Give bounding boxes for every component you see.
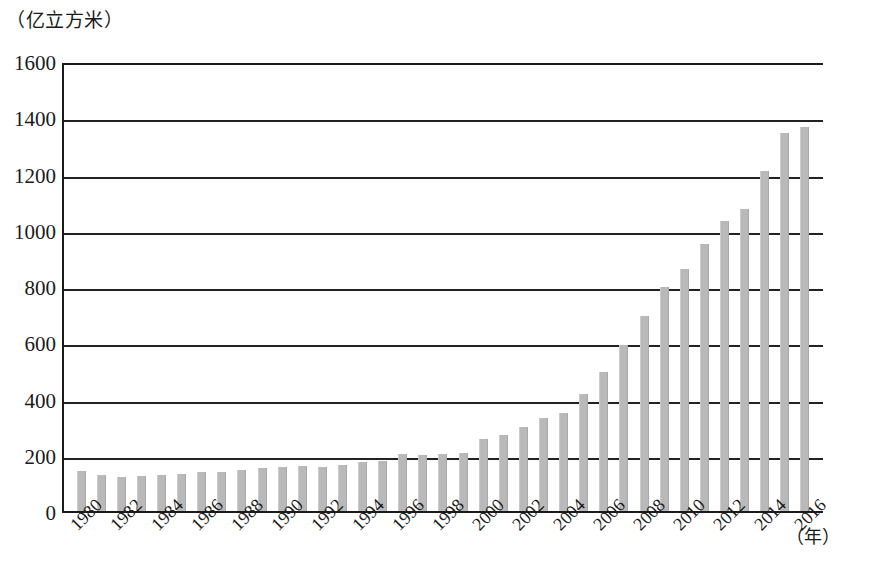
bar [800,127,809,511]
y-axis-tick-label: 1000 [0,221,56,242]
bar [499,435,508,512]
y-axis-unit-caption: （亿立方米） [6,8,123,32]
gridline [64,289,823,291]
bar [700,244,709,511]
y-axis-tick-label: 600 [0,334,56,355]
bar [780,133,789,511]
y-axis-tick-label: 200 [0,446,56,467]
bar-chart-figure: （亿立方米） 02004006008001000120014001600 198… [0,0,869,571]
y-axis-tick-label: 1200 [0,165,56,186]
gridline [64,402,823,404]
bar [720,221,729,511]
gridline [64,177,823,179]
bar [619,345,628,511]
bar [479,439,488,511]
gridline [64,345,823,347]
bar [519,427,528,511]
bar [539,418,548,511]
bar [599,372,608,511]
x-axis-title: （年） [786,527,840,547]
gridline [64,120,823,122]
y-axis-tick-labels: 02004006008001000120014001600 [0,63,56,513]
y-axis-tick-label: 1400 [0,109,56,130]
bar [760,171,769,511]
bar [559,413,568,511]
bar [640,316,649,511]
y-axis-tick-label: 800 [0,278,56,299]
y-axis-tick-label: 1600 [0,53,56,74]
bar [740,209,749,511]
plot-area [62,63,823,513]
bar [660,287,669,511]
bar [680,269,689,511]
y-axis-tick-label: 0 [0,503,56,524]
gridline [64,233,823,235]
x-axis-tick-labels: 1980198219841986198819901992199419961998… [62,513,823,571]
bar [579,394,588,511]
y-axis-tick-label: 400 [0,390,56,411]
